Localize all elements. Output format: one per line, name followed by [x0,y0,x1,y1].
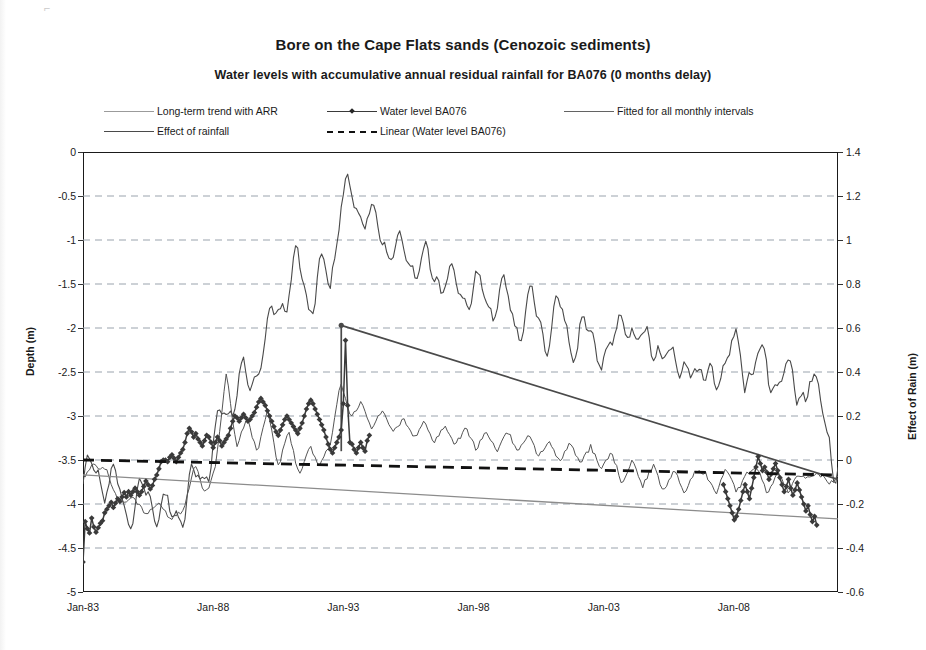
y-axis-left-tick-mark [78,328,83,329]
data-point-marker [89,515,95,521]
legend-label-long-term-trend: Long-term trend with ARR [157,105,278,117]
y-axis-left-tick-mark [78,152,83,153]
data-point-marker [271,424,277,430]
data-point-marker [83,519,88,525]
data-point-marker [299,420,305,426]
y-axis-right-tick-label: 1.4 [846,146,861,158]
y-axis-right-tick-label: 0.4 [846,366,861,378]
y-axis-right-tick-mark [838,284,843,285]
legend-line-icon-fitted [564,106,614,117]
y-axis-left-tick-mark [78,240,83,241]
series-long-term-trend-with-arr [83,475,838,519]
data-point-marker [810,519,816,525]
y-axis-left-tick-label: -3.5 [58,454,76,466]
data-point-marker [749,485,755,491]
data-point-marker [751,475,757,481]
legend-label-fitted: Fitted for all monthly intervals [617,105,754,117]
y-axis-left-tick-mark [78,284,83,285]
x-axis-tick-label: Jan-93 [327,601,359,613]
y-axis-left-tick-label: -2.5 [58,366,76,378]
y-axis-left-tick-mark [78,460,83,461]
legend-item-effect-of-rainfall[interactable]: Effect of rainfall [104,125,229,137]
data-point-marker [367,433,373,439]
y-axis-right-tick-mark [838,372,843,373]
legend-line-icon-linear [327,126,377,137]
data-point-marker [786,477,792,483]
x-axis-tick-label: Jan-08 [718,601,750,613]
data-point-marker [228,425,234,431]
y-axis-right-tick-mark [838,328,843,329]
data-point-marker [358,440,364,446]
data-point-marker [799,494,805,500]
data-point-marker [182,440,188,446]
series-effect-of-rainfall [83,174,838,529]
data-point-marker [364,438,370,444]
data-point-marker [725,496,731,502]
data-point-marker [758,461,764,467]
y-axis-title-right: Effect of Rain (m) [906,353,918,440]
data-point-marker [343,337,349,343]
y-axis-right-tick-mark [838,152,843,153]
data-point-marker [319,422,325,428]
y-axis-right-tick-label: 1.2 [846,190,861,202]
y-axis-right-tick-mark [838,416,843,417]
y-axis-right-tick-mark [838,504,843,505]
data-point-marker [321,427,327,433]
diamond-marker-icon [349,108,355,114]
y-axis-right-tick-mark [838,548,843,549]
legend-label-water-level: Water level BA076 [380,105,467,117]
data-point-marker [334,440,340,446]
legend-item-fitted[interactable]: Fitted for all monthly intervals [564,105,754,117]
data-point-marker [317,417,323,423]
legend-label-linear-water-level: Linear (Water level BA076) [380,125,506,137]
y-axis-left-tick-label: -1 [67,234,76,246]
plot-area: 0-0.5-1-1.5-2-2.5-3-3.5-4-4.5-5 1.41.210… [83,152,838,592]
y-axis-right-tick-label: 0.8 [846,278,861,290]
legend-item-water-level[interactable]: Water level BA076 [327,105,467,117]
legend-item-long-term-trend[interactable]: Long-term trend with ARR [104,105,278,117]
y-axis-left-tick-label: -0.5 [58,190,76,202]
y-axis-left-tick-mark [78,372,83,373]
scan-artifact-edge [0,0,6,650]
data-point-marker [338,427,344,433]
legend-item-linear-water-level[interactable]: Linear (Water level BA076) [327,125,506,137]
data-point-marker [747,496,753,502]
chart-legend: Long-term trend with ARR Water level BA0… [104,103,874,145]
y-axis-left-tick-label: -1.5 [58,278,76,290]
y-axis-right-tick-mark [838,196,843,197]
y-axis-right-tick-mark [838,240,843,241]
data-point-marker [742,482,748,488]
y-axis-right-tick-label: -0.4 [846,542,864,554]
y-axis-left-tick-mark [78,592,83,593]
scan-corner-mark: ⌐ [44,2,53,11]
data-point-marker [312,406,318,412]
plot-canvas [83,152,838,592]
y-axis-right-tick-label: 1 [846,234,852,246]
y-axis-left-tick-label: -5 [67,586,76,598]
data-point-marker [744,489,750,495]
data-point-marker [773,461,779,467]
data-point-marker [797,487,803,493]
data-point-marker [738,498,744,504]
y-axis-right-tick-label: -0.2 [846,498,864,510]
y-axis-left-tick-label: -4 [67,498,76,510]
data-point-marker [265,408,271,414]
y-axis-left-tick-mark [78,196,83,197]
data-point-marker [766,477,772,483]
chart-page: ⌐ Bore on the Cape Flats sands (Cenozoic… [0,0,926,650]
legend-label-effect-of-rainfall: Effect of rainfall [157,125,229,137]
data-point-marker [267,413,273,419]
data-point-marker [280,422,286,428]
y-axis-left-tick-mark [78,504,83,505]
data-point-marker [304,406,310,412]
data-point-marker [91,524,97,530]
y-axis-left-tick-label: -2 [67,322,76,334]
y-axis-title-left: Depth (m) [24,327,36,376]
chart-subtitle: Water levels with accumulative annual re… [0,68,926,82]
data-point-marker [210,445,216,451]
data-point-marker [323,434,329,440]
y-axis-right-tick-label: 0 [846,454,852,466]
data-point-marker [803,508,809,514]
y-axis-right-tick-label: -0.6 [846,586,864,598]
series-fitted-for-all-monthly-intervals [83,374,838,519]
